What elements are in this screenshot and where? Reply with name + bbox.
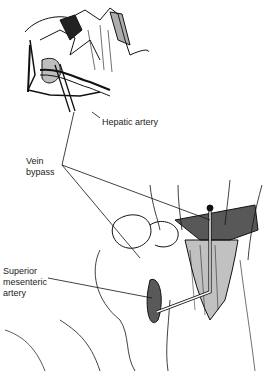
label-text-line-2: bypass bbox=[26, 167, 55, 178]
leader-lines bbox=[48, 112, 210, 298]
label-superior-mesenteric-artery: Superior mesenteric artery bbox=[3, 266, 47, 299]
upper-inset-drawing bbox=[25, 8, 148, 112]
label-hepatic-artery: Hepatic artery bbox=[102, 117, 158, 128]
label-text-line-3: artery bbox=[3, 288, 47, 299]
label-text-line-1: Vein bbox=[26, 156, 55, 167]
label-text-line-2: mesenteric bbox=[3, 277, 47, 288]
label-vein-bypass: Vein bypass bbox=[26, 156, 55, 178]
anatomical-illustration bbox=[0, 0, 273, 371]
label-text-line-1: Superior bbox=[3, 266, 47, 277]
label-text: Hepatic artery bbox=[102, 117, 158, 128]
